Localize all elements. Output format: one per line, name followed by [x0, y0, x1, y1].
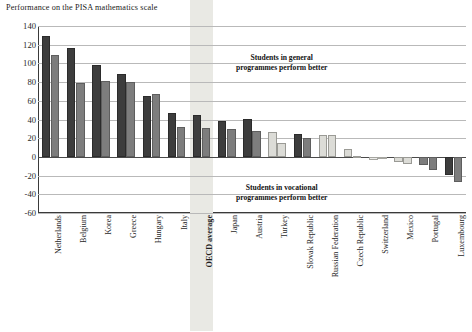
x-label-switzerland: Switzerland — [381, 215, 390, 254]
bar — [51, 55, 59, 157]
bar — [202, 128, 210, 157]
bar — [294, 134, 302, 157]
bar — [378, 157, 386, 159]
chart-title: Performance on the PISA mathematics scal… — [6, 3, 157, 12]
annotation-general-programmes: Students in general programmes perform b… — [236, 53, 327, 73]
annotation-general-line2: programmes perform better — [236, 63, 327, 73]
y-tick-label-0: 0 — [2, 152, 36, 162]
pisa-mathematics-bar-chart: Performance on the PISA mathematics scal… — [0, 0, 472, 332]
bar-group — [168, 26, 185, 213]
annotation-vocational-programmes: Students in vocational programmes perfor… — [236, 183, 327, 203]
x-label-korea: Korea — [104, 215, 113, 235]
bar — [218, 121, 226, 157]
bar — [403, 157, 411, 164]
bar — [252, 131, 260, 157]
bar — [429, 157, 437, 170]
bar — [454, 157, 462, 182]
y-tick-label-80: 80 — [2, 77, 36, 87]
y-tick-label--60: -60 — [2, 208, 36, 218]
bar-group — [193, 26, 210, 213]
bar-group — [143, 26, 160, 213]
x-label-greece: Greece — [129, 215, 138, 238]
x-label-austria: Austria — [255, 215, 264, 239]
bar — [344, 149, 352, 156]
bar — [193, 115, 201, 157]
bar — [303, 138, 311, 157]
y-tick-label--40: -40 — [2, 189, 36, 199]
bar-group — [42, 26, 59, 213]
bar — [445, 157, 453, 175]
bar-group — [394, 26, 411, 213]
x-label-oecd-average: OECD average — [205, 215, 214, 267]
bar — [277, 143, 285, 157]
bar — [177, 127, 185, 157]
bar — [117, 74, 125, 157]
y-tick-label-20: 20 — [2, 133, 36, 143]
bar-group — [218, 26, 235, 213]
y-tick-label-40: 40 — [2, 115, 36, 125]
bar — [243, 119, 251, 157]
y-tick-label-120: 120 — [2, 40, 36, 50]
y-tick-label-60: 60 — [2, 96, 36, 106]
bar-group — [445, 26, 462, 213]
bar — [353, 156, 361, 158]
bar-group — [344, 26, 361, 213]
bar — [168, 113, 176, 157]
y-tick-label-100: 100 — [2, 58, 36, 68]
bar — [126, 82, 134, 157]
x-label-portugal: Portugal — [431, 215, 440, 242]
gridline--60 — [38, 213, 466, 214]
bar — [394, 157, 402, 162]
x-label-belgium: Belgium — [79, 215, 88, 243]
bar — [143, 96, 151, 157]
annotation-general-line1: Students in general — [236, 53, 327, 63]
x-label-italy: Italy — [180, 215, 189, 230]
annotation-vocational-line2: programmes perform better — [236, 193, 327, 203]
x-label-luxembourg: Luxembourg — [457, 215, 466, 257]
x-label-czech-republic: Czech Republic — [356, 215, 365, 266]
bar-group — [67, 26, 84, 213]
bar-group — [419, 26, 436, 213]
bar-group — [117, 26, 134, 213]
bar — [76, 83, 84, 157]
x-label-mexico: Mexico — [406, 215, 415, 240]
bar — [328, 135, 336, 157]
bar — [319, 135, 327, 157]
bar — [67, 48, 75, 156]
x-label-hungary: Hungary — [154, 215, 163, 243]
x-label-slovak-republic: Slovak Republic — [306, 215, 315, 269]
bar — [419, 157, 427, 165]
bar — [152, 94, 160, 157]
x-axis-category-labels: NetherlandsBelgiumKoreaGreeceHungaryItal… — [38, 215, 466, 332]
bar — [268, 132, 276, 157]
y-tick-label-140: 140 — [2, 21, 36, 31]
annotation-vocational-line1: Students in vocational — [236, 183, 327, 193]
x-label-turkey: Turkey — [280, 215, 289, 238]
bar-group — [92, 26, 109, 213]
x-label-japan: Japan — [230, 215, 239, 233]
bar — [92, 65, 100, 157]
bar — [227, 129, 235, 157]
x-label-russian-federation: Russian Federation — [331, 215, 340, 277]
bar — [42, 36, 50, 157]
bar — [369, 157, 377, 160]
bar — [101, 81, 109, 157]
y-tick-label--20: -20 — [2, 171, 36, 181]
bar-group — [369, 26, 386, 213]
x-label-netherlands: Netherlands — [54, 215, 63, 254]
